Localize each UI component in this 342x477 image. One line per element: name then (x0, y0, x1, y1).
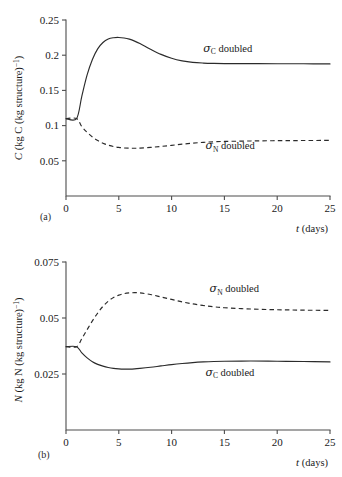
curve-annotation: σC doubled (203, 42, 253, 57)
x-tick-label: 25 (325, 436, 337, 448)
figure-container: 0.050.10.150.20.250510152025σC doubledσN… (0, 0, 342, 477)
x-tick-label: 15 (219, 436, 231, 448)
data-curve-dashed (66, 293, 330, 348)
panel-b-tag: (b) (38, 449, 50, 460)
data-curve-dashed (66, 118, 330, 148)
x-tick-label: 5 (116, 202, 122, 214)
x-tick-label: 0 (63, 202, 69, 214)
chart-panel-b: 0.0250.050.0750510152025σN doubledσC dou… (0, 238, 342, 477)
y-tick-label: 0.05 (40, 312, 60, 324)
x-tick-label: 10 (166, 436, 178, 448)
x-tick-label: 20 (272, 436, 284, 448)
y-tick-label: 0.075 (34, 256, 59, 268)
chart-panel-a: 0.050.10.150.20.250510152025σC doubledσN… (0, 0, 342, 238)
x-tick-label: 15 (219, 202, 231, 214)
panel-a-tag: (a) (40, 211, 51, 222)
x-tick-label: 0 (63, 436, 69, 448)
y-tick-label: 0.1 (45, 119, 59, 131)
x-axis-title: t (days) (296, 222, 328, 235)
y-tick-label: 0.2 (45, 49, 59, 61)
y-axis-title: C (kg C (kg structure)−1) (12, 55, 25, 160)
curve-annotation: σC doubled (205, 366, 255, 381)
data-curve-solid (66, 346, 330, 369)
y-tick-label: 0.05 (40, 155, 60, 167)
y-tick-label: 0.25 (40, 14, 60, 26)
x-tick-label: 10 (166, 202, 178, 214)
curve-annotation: σN doubled (210, 282, 260, 297)
x-tick-label: 5 (116, 436, 122, 448)
data-curve-solid (66, 37, 330, 120)
y-tick-label: 0.15 (40, 84, 60, 96)
x-tick-label: 25 (325, 202, 337, 214)
chart-b-plot: 0.0250.050.0750510152025σN doubledσC dou… (0, 238, 342, 477)
curve-annotation: σN doubled (205, 139, 255, 154)
x-axis-title: t (days) (296, 456, 328, 469)
chart-a-plot: 0.050.10.150.20.250510152025σC doubledσN… (0, 0, 342, 238)
y-tick-label: 0.025 (34, 368, 59, 380)
y-axis-title: N (kg N (kg structure)−1) (12, 297, 25, 404)
x-tick-label: 20 (272, 202, 284, 214)
